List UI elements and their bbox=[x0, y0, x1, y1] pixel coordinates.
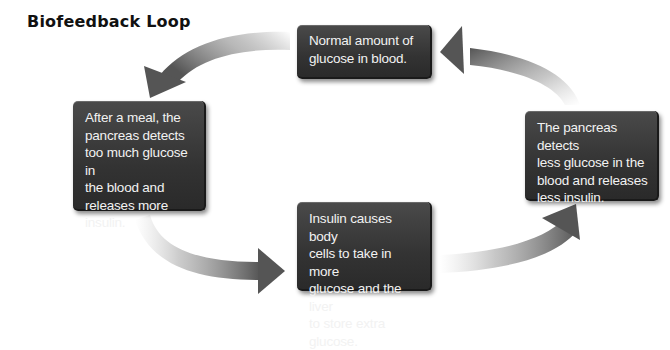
arrow-bottom-to-right bbox=[440, 204, 580, 273]
step-box-low-glucose: The pancreas detects less glucose in the… bbox=[525, 111, 659, 201]
step-text: Normal amount of glucose in blood. bbox=[309, 32, 421, 67]
step-box-insulin-action: Insulin causes body cells to take in mor… bbox=[297, 202, 432, 291]
arrow-top-to-left bbox=[144, 32, 290, 98]
step-text: The pancreas detects less glucose in the… bbox=[537, 119, 648, 207]
step-text: After a meal, the pancreas detects too m… bbox=[85, 109, 195, 232]
step-box-normal-glucose: Normal amount of glucose in blood. bbox=[297, 25, 432, 79]
arrow-right-to-top bbox=[440, 26, 580, 105]
step-box-high-glucose: After a meal, the pancreas detects too m… bbox=[73, 101, 206, 211]
step-text: Insulin causes body cells to take in mor… bbox=[309, 210, 421, 350]
